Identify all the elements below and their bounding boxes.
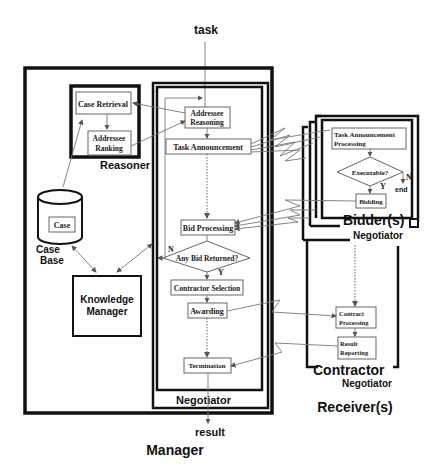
tap-label-2: Processing — [334, 140, 366, 148]
bidder-title: Bidder(s) — [343, 212, 404, 228]
km-negotiator-arrow — [117, 244, 152, 272]
result-reporting-label-1: Result — [340, 340, 359, 347]
bidder-stack-4 — [303, 127, 308, 240]
addressee-reasoning-label-2: Reasoning — [190, 118, 224, 127]
reasoner-title: Reasoner — [100, 159, 151, 171]
bid-processing-label: Bid Processing — [183, 224, 233, 233]
case-base-title-1: Case — [36, 244, 60, 255]
branch-no-label: N — [168, 245, 174, 254]
contractor-box-left — [307, 240, 318, 367]
receivers-title: Receiver(s) — [317, 399, 393, 415]
announce-message-4 — [251, 150, 306, 161]
branch-yes-label: Y — [218, 268, 224, 277]
executable-no-label: N — [406, 173, 412, 182]
addressee-reasoning-label-1: Addressee — [191, 109, 224, 118]
contract-net-diagram: task Negotiator Reasoner Case Retrieval … — [0, 0, 439, 472]
addressee-ranking-label-2: Ranking — [95, 144, 123, 153]
bidder-stack-corner — [410, 219, 418, 227]
bid-message-1 — [235, 200, 356, 223]
executable-yes-label: Y — [380, 182, 386, 191]
bidding-label: Bidding — [359, 198, 383, 206]
contract-processing-label-1: Contract — [339, 310, 365, 317]
contractor-box-right — [393, 246, 398, 367]
tap-label-1: Task Announcement — [334, 131, 396, 139]
manager-negotiator-inner — [157, 87, 262, 390]
case-retrieval-label: Case Retrieval — [78, 100, 129, 109]
knowledge-manager-label-1: Knowledge — [80, 294, 134, 305]
casebase-km-arrow — [72, 246, 96, 272]
task-announcement-label: Task Announcement — [173, 143, 243, 152]
task-input-label: task — [194, 23, 218, 37]
reasoning-to-retrieval-arrow — [133, 103, 185, 113]
case-item-label: Case — [54, 221, 71, 230]
case-base-cylinder-top — [38, 190, 82, 204]
result-output-label: result — [195, 426, 225, 438]
result-reporting-label-2: Reporting — [340, 349, 369, 356]
bidder-negotiator-title: Negotiator — [353, 230, 403, 241]
contractor-negotiator-title: Negotiator — [342, 378, 392, 389]
executable-label: Executable? — [352, 169, 389, 177]
any-bid-returned-label: Any Bid Returned? — [176, 254, 239, 263]
manager-negotiator-title: Negotiator — [176, 394, 232, 406]
contract-processing-label-2: Processing — [339, 319, 369, 326]
manager-title: Manager — [146, 442, 204, 458]
knowledge-manager-label-2: Manager — [86, 306, 127, 317]
contractor-title: Contractor — [313, 362, 385, 378]
case-base-title-2: Base — [40, 255, 64, 266]
termination-label: Termination — [188, 362, 225, 370]
contractor-selection-label: Contractor Selection — [174, 284, 241, 293]
awarding-label: Awarding — [190, 307, 224, 316]
award-message — [227, 300, 336, 316]
end-label: end — [395, 186, 407, 193]
addressee-ranking-label-1: Addressee — [93, 134, 126, 143]
